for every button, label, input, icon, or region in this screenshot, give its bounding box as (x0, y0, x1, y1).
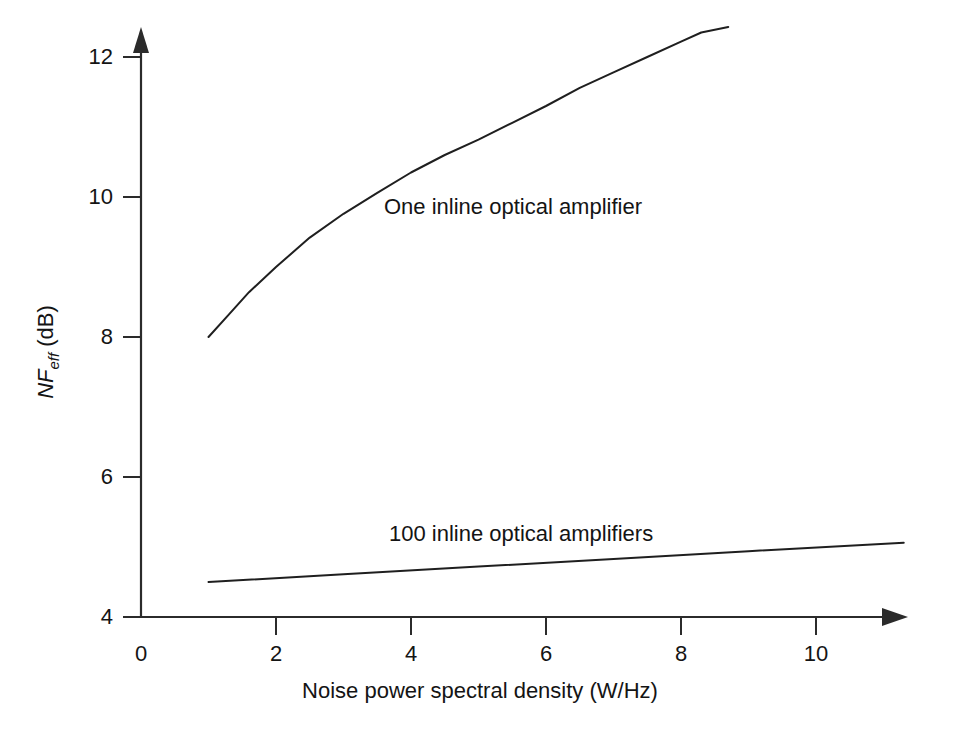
y-axis-title-symbol: NF (33, 370, 58, 399)
x-axis-tick-label: 0 (135, 643, 147, 665)
x-axis-tick-label: 10 (804, 643, 828, 665)
x-axis-tick-label: 4 (405, 643, 417, 665)
y-axis-title: NFeff (dB) (35, 305, 60, 399)
y-axis-title-subscript: eff (45, 353, 62, 370)
series-lines (209, 27, 904, 582)
x-axis-tick-label: 6 (540, 643, 552, 665)
x-axis-tick-label: 8 (675, 643, 687, 665)
series-label-100-inline-optical-amplifiers: 100 inline optical amplifiers (389, 523, 653, 545)
chart-plot-area (0, 0, 959, 737)
x-axis-tick-label: 2 (270, 643, 282, 665)
series-line-0 (209, 27, 729, 337)
series-line-1 (209, 543, 904, 582)
y-axis-tick-label: 4 (101, 606, 113, 628)
y-axis-title-unit: (dB) (33, 305, 58, 347)
y-axis-arrow-icon (133, 27, 149, 53)
series-label-one-inline-optical-amplifier: One inline optical amplifier (384, 196, 642, 218)
x-axis-arrow-icon (882, 608, 908, 626)
y-axis-tick-label: 10 (89, 186, 113, 208)
y-axis-tick-label: 12 (89, 46, 113, 68)
x-axis-title: Noise power spectral density (W/Hz) (302, 680, 658, 702)
y-axis-tick-label: 6 (101, 466, 113, 488)
y-axis-tick-label: 8 (101, 326, 113, 348)
y-axis-ticks (123, 57, 141, 617)
figure-canvas: 4681012 0246810 Noise power spectral den… (0, 0, 959, 737)
